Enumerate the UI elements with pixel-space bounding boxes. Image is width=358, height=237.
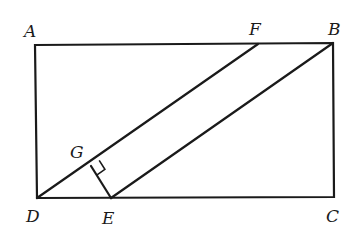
label-a: A	[22, 21, 36, 41]
label-g: G	[70, 142, 84, 162]
segment-df	[37, 44, 258, 198]
rectangle-abcd	[35, 43, 334, 198]
label-c: C	[326, 206, 339, 226]
label-f: F	[248, 19, 262, 39]
label-d: D	[25, 206, 40, 226]
segment-eb	[111, 43, 333, 198]
right-angle-marker	[97, 160, 105, 175]
label-b: B	[327, 19, 341, 39]
geometry-figure: A B C D E F G	[0, 0, 358, 237]
segment-ge	[91, 166, 111, 198]
label-e: E	[101, 208, 115, 228]
